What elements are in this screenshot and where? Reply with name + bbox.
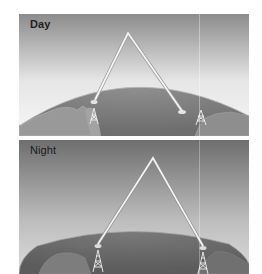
day-illustration bbox=[19, 14, 249, 136]
night-illustration bbox=[19, 140, 249, 274]
day-panel: Day bbox=[19, 14, 249, 136]
night-label: Night bbox=[30, 144, 56, 156]
night-panel: Night bbox=[19, 140, 249, 274]
reflection-glow bbox=[178, 110, 186, 114]
day-label: Day bbox=[30, 18, 50, 30]
